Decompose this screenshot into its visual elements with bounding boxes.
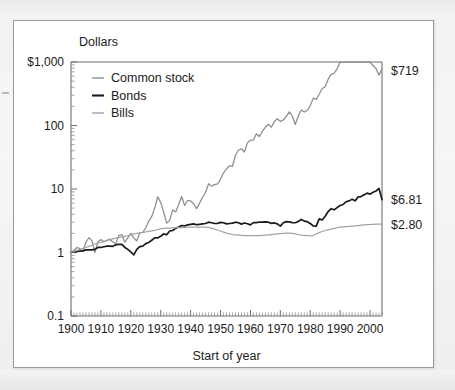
x-tick-label-10: 2000 [357, 322, 384, 336]
x-tick-label-4: 1940 [177, 322, 204, 336]
y-tick-label-2: 10 [51, 182, 65, 196]
legend-item-common-stock: Common stock [111, 71, 195, 85]
figure-frame: $1,0001001010.11900191019201930194019501… [13, 20, 434, 368]
series-line-bills [71, 224, 382, 252]
legend-item-bonds: Bonds [111, 89, 146, 103]
x-tick-label-0: 1900 [58, 322, 85, 336]
y-tick-label-4: 0.1 [47, 309, 64, 323]
y-axis-unit-label: Dollars [79, 35, 118, 49]
y-tick-label-3: 1 [57, 246, 64, 260]
x-tick-label-1: 1910 [88, 322, 115, 336]
y-tick-label-0: $1,000 [27, 55, 64, 69]
axes-group: $1,0001001010.11900191019201930194019501… [27, 55, 383, 336]
y-tick-label-1: 100 [44, 119, 64, 133]
page-edge-mark [2, 92, 9, 94]
x-tick-label-5: 1950 [207, 322, 234, 336]
end-label-0: $719 [391, 64, 419, 78]
x-tick-label-2: 1920 [117, 322, 144, 336]
x-tick-label-9: 1990 [327, 322, 354, 336]
end-label-1: $6.81 [391, 193, 422, 207]
x-tick-label-8: 1980 [297, 322, 324, 336]
end-label-2: $2.80 [391, 218, 422, 232]
legend-group: Common stockBondsBills [92, 71, 195, 120]
x-tick-label-3: 1930 [147, 322, 174, 336]
x-axis-title: Start of year [192, 349, 260, 363]
legend-item-bills: Bills [111, 106, 134, 120]
x-tick-label-6: 1960 [237, 322, 264, 336]
x-tick-label-7: 1970 [267, 322, 294, 336]
series-line-bonds [71, 188, 382, 254]
page-background: $1,0001001010.11900191019201930194019501… [0, 0, 455, 390]
chart-canvas: $1,0001001010.11900191019201930194019501… [14, 21, 433, 367]
